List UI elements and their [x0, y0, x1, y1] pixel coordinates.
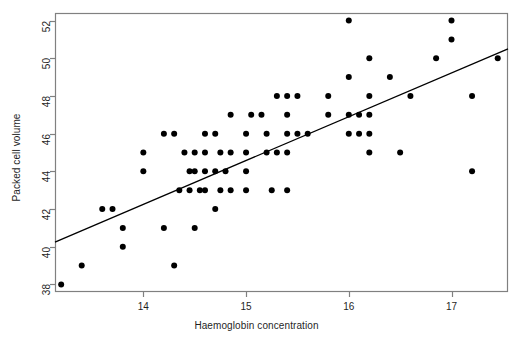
data-point — [192, 168, 198, 174]
data-point — [217, 150, 223, 156]
data-point — [305, 131, 311, 137]
data-point — [140, 168, 146, 174]
data-point — [366, 131, 372, 137]
plot-frame — [56, 14, 508, 292]
data-point — [294, 93, 300, 99]
y-axis-title: Packed cell volume — [11, 78, 22, 238]
data-point — [171, 131, 177, 137]
data-point — [397, 150, 403, 156]
scatter-chart: 14151617 3840424446485052 Haemoglobin co… — [0, 0, 513, 343]
data-point — [243, 168, 249, 174]
data-point — [356, 112, 362, 118]
data-point — [228, 187, 234, 193]
data-point — [187, 187, 193, 193]
data-point — [366, 112, 372, 118]
data-points — [58, 18, 501, 288]
data-point — [264, 150, 270, 156]
data-point — [495, 55, 501, 61]
data-point — [366, 93, 372, 99]
data-point — [202, 150, 208, 156]
y-tick-label: 42 — [41, 209, 52, 220]
data-point — [346, 18, 352, 24]
data-point — [284, 93, 290, 99]
data-point — [202, 131, 208, 137]
data-point — [192, 150, 198, 156]
x-tick-label: 14 — [138, 301, 149, 312]
data-point — [284, 131, 290, 137]
data-point — [181, 150, 187, 156]
y-tick-label: 48 — [41, 96, 52, 107]
data-point — [120, 244, 126, 250]
data-point — [294, 131, 300, 137]
data-point — [99, 206, 105, 212]
data-point — [161, 225, 167, 231]
data-point — [176, 187, 182, 193]
data-point — [387, 74, 393, 80]
data-point — [284, 187, 290, 193]
data-point — [161, 131, 167, 137]
plot-area-svg — [0, 0, 513, 343]
data-point — [58, 281, 64, 287]
data-point — [274, 93, 280, 99]
data-point — [433, 55, 439, 61]
data-point — [274, 150, 280, 156]
data-point — [79, 263, 85, 269]
data-point — [356, 131, 362, 137]
data-point — [228, 112, 234, 118]
data-point — [449, 18, 455, 24]
data-point — [197, 187, 203, 193]
y-tick-label: 52 — [41, 21, 52, 32]
regression-line — [55, 49, 508, 242]
axis-ticks — [50, 22, 453, 298]
data-point — [223, 168, 229, 174]
data-point — [346, 74, 352, 80]
data-point — [366, 55, 372, 61]
data-point — [248, 112, 254, 118]
y-tick-label: 50 — [41, 58, 52, 69]
data-point — [407, 93, 413, 99]
data-point — [258, 112, 264, 118]
data-point — [346, 131, 352, 137]
y-tick-label: 38 — [41, 284, 52, 295]
data-point — [120, 225, 126, 231]
data-point — [346, 112, 352, 118]
x-axis-title: Haemoglobin concentration — [0, 320, 513, 331]
data-point — [469, 93, 475, 99]
data-point — [264, 131, 270, 137]
data-point — [212, 168, 218, 174]
data-point — [171, 263, 177, 269]
x-tick-label: 17 — [446, 301, 457, 312]
data-point — [325, 112, 331, 118]
data-point — [187, 168, 193, 174]
x-tick-label: 15 — [240, 301, 251, 312]
data-point — [366, 150, 372, 156]
data-point — [449, 36, 455, 42]
data-point — [243, 187, 249, 193]
data-point — [202, 168, 208, 174]
y-tick-label: 40 — [41, 247, 52, 258]
data-point — [469, 168, 475, 174]
data-point — [284, 112, 290, 118]
data-point — [140, 150, 146, 156]
data-point — [269, 187, 275, 193]
data-point — [325, 93, 331, 99]
data-point — [212, 131, 218, 137]
data-point — [202, 187, 208, 193]
y-tick-label: 46 — [41, 134, 52, 145]
data-point — [284, 150, 290, 156]
data-point — [192, 225, 198, 231]
data-point — [110, 206, 116, 212]
x-tick-label: 16 — [343, 301, 354, 312]
data-point — [212, 206, 218, 212]
data-point — [217, 187, 223, 193]
y-tick-label: 44 — [41, 171, 52, 182]
data-point — [243, 131, 249, 137]
data-point — [228, 150, 234, 156]
data-point — [243, 150, 249, 156]
